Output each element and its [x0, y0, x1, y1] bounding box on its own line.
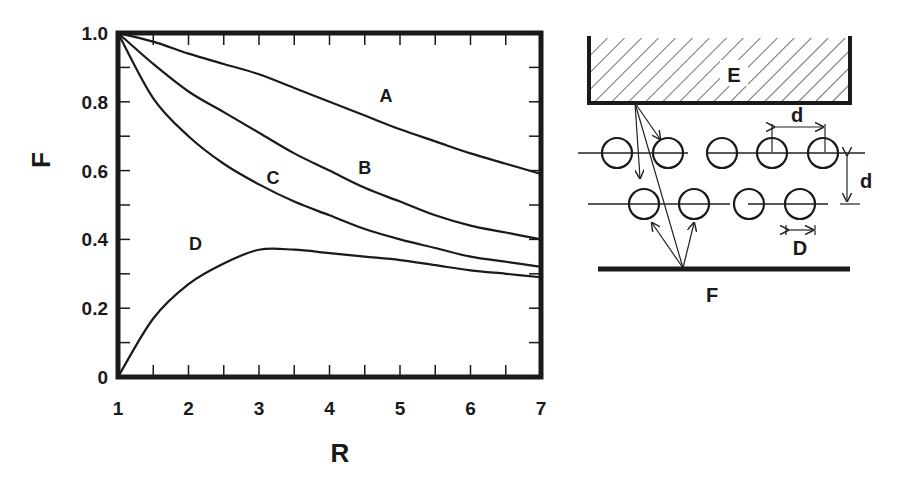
tube-rows — [578, 138, 865, 219]
emitter-block: E — [589, 36, 850, 103]
row-spacing-dimension — [840, 155, 860, 204]
pitch-label: d — [791, 104, 803, 126]
schematic-diagram: E F d d D — [0, 0, 897, 481]
pitch-dimension — [772, 124, 825, 152]
diameter-label: D — [793, 237, 807, 259]
emitter-label: E — [727, 64, 740, 86]
floor-label: F — [706, 284, 718, 306]
diameter-dimension — [786, 225, 815, 235]
row-spacing-label: d — [860, 170, 872, 192]
floor-surface: F — [598, 269, 850, 306]
ray-arrows — [635, 103, 694, 268]
